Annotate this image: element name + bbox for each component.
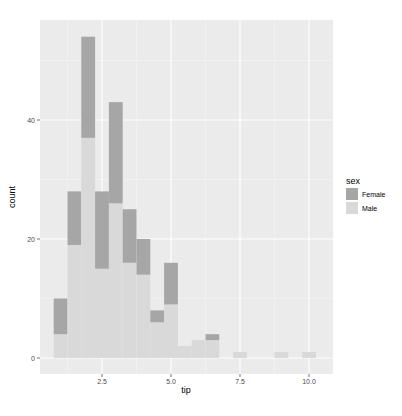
y-axis-title: count (7, 185, 17, 208)
bar-male (109, 203, 123, 358)
y-tick-label: 0 (31, 355, 35, 362)
bar-female (206, 334, 220, 340)
legend-key-male (346, 202, 358, 214)
y-tick-label: 40 (27, 117, 35, 124)
bar-male (233, 352, 247, 358)
y-tick-label: 20 (27, 236, 35, 243)
bar-female (109, 102, 123, 203)
bar-female (95, 191, 109, 268)
bar-female (123, 209, 137, 263)
x-tick-label: 7.5 (235, 378, 245, 385)
legend-title: sex (346, 176, 361, 186)
bar-female (81, 37, 95, 138)
bar-female (164, 263, 178, 305)
legend: sex Female Male (346, 176, 385, 214)
bar-female (68, 191, 82, 245)
histogram-chart: 02040 2.55.07.510.0 tip count sex Female… (0, 0, 402, 416)
bar-male (137, 275, 151, 358)
x-tick-label: 5.0 (166, 378, 176, 385)
bar-male (123, 263, 137, 358)
x-tick-label: 2.5 (97, 378, 107, 385)
bar-male (150, 322, 164, 358)
x-axis: 2.55.07.510.0 (97, 374, 316, 385)
bar-male (164, 304, 178, 358)
bar-female (150, 310, 164, 322)
bar-male (178, 346, 192, 358)
legend-key-female (346, 188, 358, 200)
bar-male (192, 340, 206, 358)
x-axis-title: tip (181, 385, 191, 395)
bar-male (81, 138, 95, 358)
bar-male (206, 340, 220, 358)
y-axis: 02040 (27, 117, 40, 362)
bar-male (302, 352, 316, 358)
bar-male (68, 245, 82, 358)
bar-female (54, 299, 68, 335)
bar-female (137, 239, 151, 275)
bar-male (275, 352, 289, 358)
x-tick-label: 10.0 (302, 378, 316, 385)
bar-male (95, 269, 109, 358)
legend-label-male: Male (362, 205, 377, 212)
legend-label-female: Female (362, 191, 385, 198)
bar-male (54, 334, 68, 358)
